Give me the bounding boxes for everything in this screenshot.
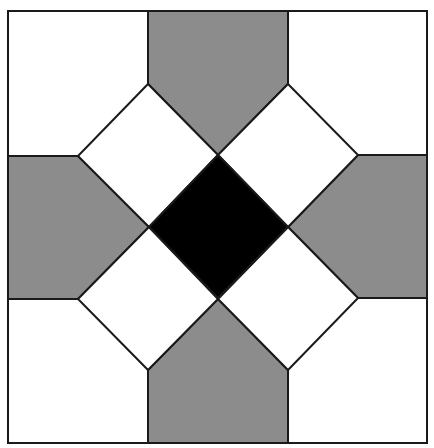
quilt-block-diagram — [0, 0, 434, 448]
